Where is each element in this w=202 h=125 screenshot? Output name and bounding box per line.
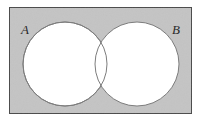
venn-diagram-figure: A B <box>0 0 202 125</box>
set-a-label: A <box>20 22 29 37</box>
venn-diagram-canvas: A B <box>0 0 202 125</box>
set-b-label: B <box>172 22 180 37</box>
set-b-circle <box>95 22 179 106</box>
